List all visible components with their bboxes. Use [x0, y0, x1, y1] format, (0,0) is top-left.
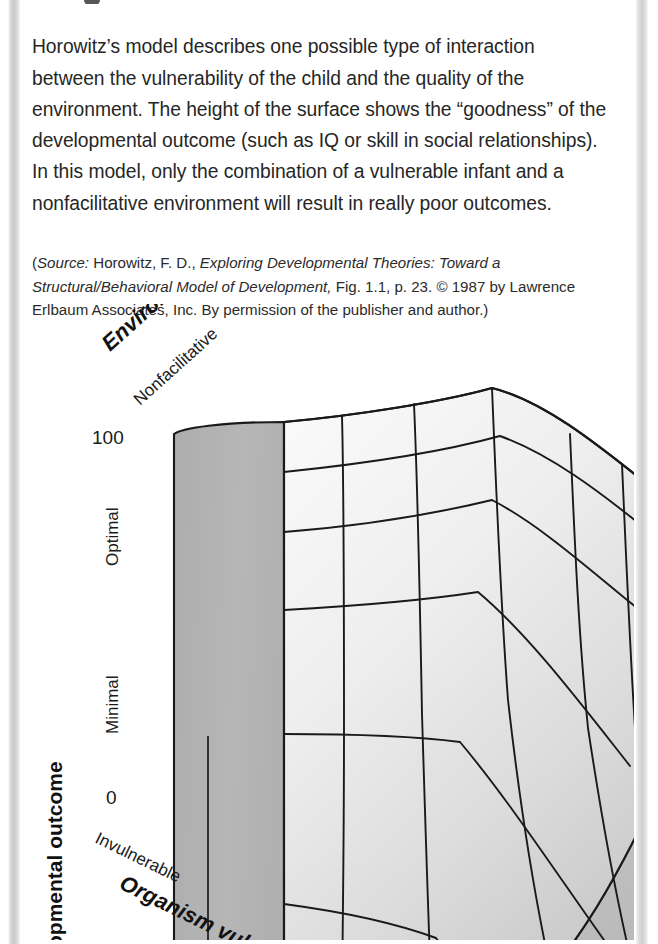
- z-tick-minimal: Minimal: [103, 675, 122, 734]
- z-axis-title: Developmental outcome: [43, 761, 66, 940]
- body-paragraph: Horowitz’s model describes one possible …: [32, 31, 607, 219]
- block-left-face: [174, 422, 284, 940]
- source-label: Source:: [37, 254, 89, 271]
- y-tick-nonfacilitative-back: Nonfacilitative: [130, 324, 221, 409]
- z-axis-group: Developmental outcome 100 Optimal Minima…: [43, 427, 124, 940]
- z-tick-0: 0: [106, 787, 117, 808]
- book-page: Horowitz’s model describes one possible …: [0, 0, 658, 944]
- surface-plot-figure: Developmental outcome 100 Optimal Minima…: [22, 304, 634, 940]
- z-tick-optimal: Optimal: [103, 507, 122, 566]
- y-axis-back-group: Nonfacilitative Facilitative Environment: [97, 304, 343, 409]
- page-content: Horowitz’s model describes one possible …: [22, 4, 634, 940]
- page-gutter-right: [636, 0, 648, 944]
- surface-plot-svg: Developmental outcome 100 Optimal Minima…: [22, 304, 634, 940]
- page-gutter-left: [8, 0, 20, 944]
- z-tick-100: 100: [92, 427, 124, 448]
- source-author: Horowitz, F. D.,: [89, 254, 200, 271]
